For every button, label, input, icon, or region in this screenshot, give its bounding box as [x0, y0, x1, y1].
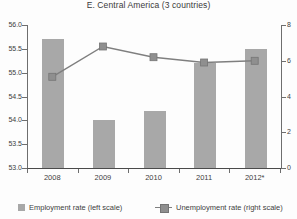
chart-title: E. Central America (3 countries)	[0, 0, 297, 11]
y-left-tick	[22, 97, 27, 98]
x-tick	[128, 169, 129, 173]
y-right-tick-label: 6	[287, 57, 297, 65]
x-label-2008: 2008	[30, 173, 74, 182]
y-left-tick-label: 54.0	[0, 116, 22, 124]
employment-bar-2012*	[245, 49, 267, 168]
y-left-tick	[22, 25, 27, 26]
y-left-tick	[22, 144, 27, 145]
y-left-tick-label: 56.0	[0, 21, 22, 29]
chart-panel: E. Central America (3 countries) Employm…	[0, 0, 297, 219]
y-right-tick-label: 0	[287, 164, 297, 172]
legend: Employment rate (left scale) Unemploymen…	[0, 201, 297, 213]
x-label-2010: 2010	[132, 173, 176, 182]
x-label-2012*: 2012*	[233, 173, 277, 182]
unemployment-marker-swatch	[160, 204, 169, 213]
x-tick	[280, 169, 281, 173]
x-label-2011: 2011	[182, 173, 226, 182]
y-left-tick-label: 53.5	[0, 140, 22, 148]
plot-area	[27, 25, 282, 169]
employment-bar-2011	[194, 63, 216, 168]
y-left-tick	[22, 49, 27, 50]
employment-bar-swatch	[18, 204, 25, 211]
legend-label-employment: Employment rate (left scale)	[29, 203, 122, 212]
y-right-tick-label: 8	[287, 21, 297, 29]
x-tick	[27, 169, 28, 173]
legend-entry-employment: Employment rate (left scale)	[18, 201, 122, 213]
x-tick	[179, 169, 180, 173]
y-right-tick-label: 2	[287, 128, 297, 136]
y-right-tick	[281, 61, 286, 62]
y-right-tick	[281, 97, 286, 98]
legend-entry-unemployment: Unemployment rate (right scale)	[155, 201, 283, 213]
employment-bar-2008	[42, 39, 64, 168]
y-left-tick	[22, 120, 27, 121]
y-left-tick-label: 55.0	[0, 69, 22, 77]
employment-bar-2010	[144, 111, 166, 168]
y-right-tick	[281, 168, 286, 169]
y-right-tick	[281, 132, 286, 133]
y-left-tick	[22, 73, 27, 74]
y-right-tick-label: 4	[287, 93, 297, 101]
employment-bar-2009	[93, 120, 115, 168]
legend-label-unemployment: Unemployment rate (right scale)	[176, 203, 283, 212]
y-left-tick-label: 54.5	[0, 93, 22, 101]
y-left-tick-label: 55.5	[0, 45, 22, 53]
y-right-tick	[281, 25, 286, 26]
x-tick	[78, 169, 79, 173]
x-label-2009: 2009	[81, 173, 125, 182]
unemployment-line-swatch	[155, 207, 172, 208]
y-left-tick-label: 53.0	[0, 164, 22, 172]
x-tick	[229, 169, 230, 173]
